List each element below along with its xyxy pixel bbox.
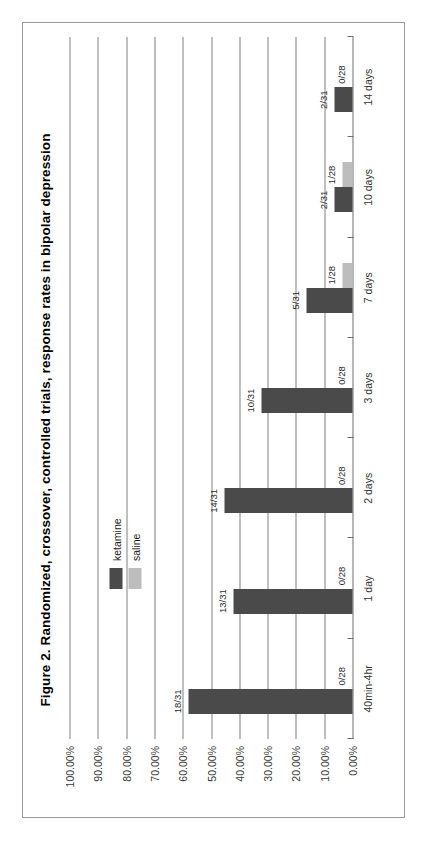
y-axis-tick-label: 10.00% (318, 746, 330, 782)
category-axis-label: 14 days (361, 69, 373, 106)
y-axis-tick-label: 30.00% (261, 746, 273, 782)
category-axis-tick (347, 638, 353, 639)
chart-canvas: Figure 2. Randomized, crossover, control… (23, 23, 404, 817)
figure-frame: Figure 2. Randomized, crossover, control… (22, 22, 405, 818)
category-axis-label: 40min-4hr (361, 665, 373, 712)
bar-ketamine-1-day (233, 589, 352, 614)
gridline (211, 37, 212, 739)
bar-ketamine-10-days (334, 187, 352, 212)
bar-ketamine-40min-4hr (188, 689, 352, 714)
bar-value-label: 5/31 (289, 291, 300, 310)
category-axis-tick (347, 437, 353, 438)
category-axis-tick (347, 237, 353, 238)
y-axis-tick-label: 80.00% (120, 746, 132, 782)
category-axis-tick (347, 136, 353, 137)
bar-value-label: 0/28 (335, 366, 346, 385)
bar-ketamine-14-days (334, 87, 352, 112)
bar-saline-10-days (342, 162, 352, 187)
bar-value-label: 13/31 (216, 589, 227, 613)
y-axis-tick-label: 60.00% (176, 746, 188, 782)
category-axis-label: 2 days (361, 473, 373, 504)
bar-ketamine-2-days (224, 488, 352, 513)
bar-value-label: 0/28 (335, 467, 346, 486)
bar-ketamine-7-days (306, 288, 352, 313)
bar-value-label: 0/28 (335, 667, 346, 686)
gridline (154, 37, 155, 739)
bar-value-label: 0/28 (335, 65, 346, 84)
category-axis-tick (347, 36, 353, 37)
category-axis-tick (347, 738, 353, 739)
bar-value-label: 0/28 (335, 567, 346, 586)
category-axis-label: 7 days (361, 272, 373, 303)
gridline (69, 37, 70, 739)
y-axis-tick-label: 100.00% (63, 746, 75, 787)
bar-value-label: 2/31 (317, 191, 328, 210)
bar-value-label: 18/31 (171, 690, 182, 714)
bar-saline-7-days (342, 263, 352, 288)
gridline (126, 37, 127, 739)
y-axis-tick-label: 70.00% (148, 746, 160, 782)
y-axis-tick-label: 0.00% (346, 746, 358, 776)
y-axis-tick-label: 40.00% (233, 746, 245, 782)
gridline (182, 37, 183, 739)
gridline (239, 37, 240, 739)
y-axis-tick-label: 50.00% (205, 746, 217, 782)
category-axis-label: 3 days (361, 373, 373, 404)
chart-title: Figure 2. Randomized, crossover, control… (37, 23, 52, 817)
bar-value-label: 10/31 (244, 389, 255, 413)
gridline (97, 37, 98, 739)
y-axis-tick-label: 20.00% (289, 746, 301, 782)
bar-value-label: 1/28 (325, 266, 336, 285)
rotated-chart-container: Figure 2. Randomized, crossover, control… (23, 23, 404, 817)
bar-value-label: 14/31 (207, 489, 218, 513)
category-axis-label: 1 day (361, 576, 373, 602)
plot-area: 100.00%90.00%80.00%70.00%60.00%50.00%40.… (69, 37, 352, 739)
category-axis-tick (347, 537, 353, 538)
bar-value-label: 1/28 (325, 166, 336, 185)
bar-value-label: 2/31 (317, 90, 328, 109)
category-axis-tick (347, 337, 353, 338)
category-axis-label: 10 days (361, 169, 373, 206)
y-axis-tick-label: 90.00% (91, 746, 103, 782)
bar-ketamine-3-days (261, 388, 352, 413)
